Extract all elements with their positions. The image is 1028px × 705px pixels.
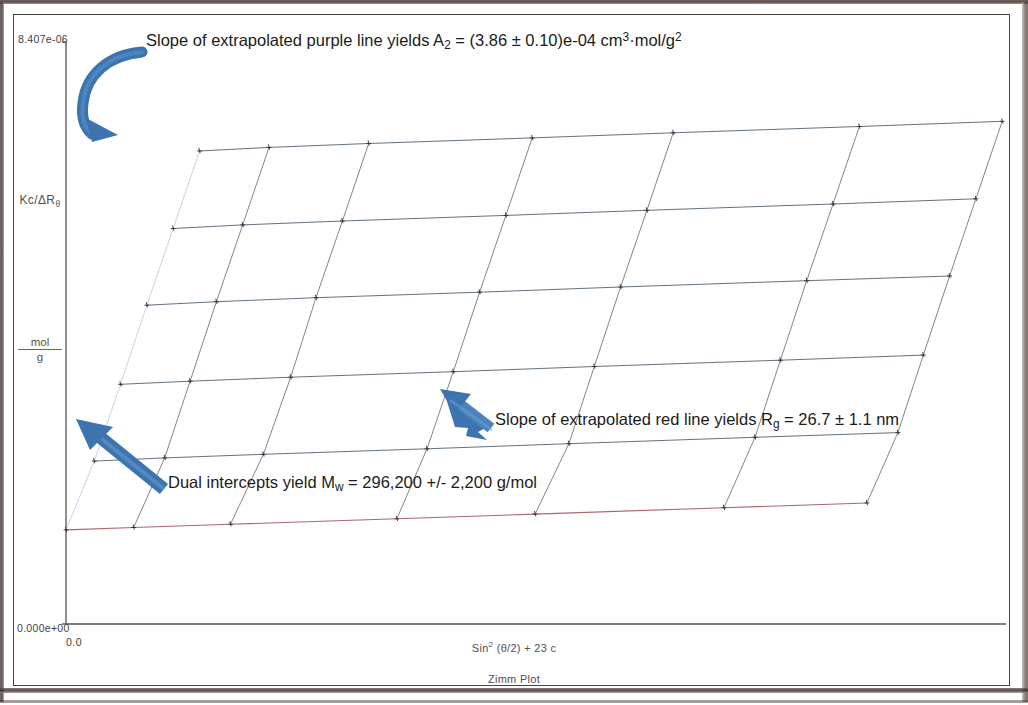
page-edge-bottom-secondary <box>0 700 1028 703</box>
chart-frame <box>13 14 1010 686</box>
annotation-purple-slope: Slope of extrapolated purple line yields… <box>146 30 682 52</box>
y-axis-units: mol g <box>18 336 62 363</box>
annotation-purple-text-1: Slope of extrapolated purple line yields… <box>146 31 444 49</box>
annotation-red-text-1: Slope of extrapolated red line yields R <box>495 410 773 428</box>
annotation-mw-text-2: = 296,200 +/- 2,200 g/mol <box>343 473 537 491</box>
y-axis-units-numerator: mol <box>18 336 62 350</box>
annotation-mw-text-1: Dual intercepts yield M <box>168 473 335 491</box>
y-axis-max-tick-label: 8.407e-06 <box>18 33 68 45</box>
x-axis-title-rest: (θ/2) + 23 c <box>493 642 556 654</box>
y-axis-title-main: Kc/ΔR <box>19 193 55 207</box>
page-edge-left <box>0 2 4 702</box>
x-axis-title: Sin2 (θ/2) + 23 c <box>0 640 1028 654</box>
zimm-plot-screenshot: 8.407e-06 0.000e+00 0.0 Kc/ΔRθ mol g Sin… <box>0 0 1028 705</box>
annotation-purple-sub-1: 2 <box>444 38 451 52</box>
page-edge-bottom <box>0 688 1028 693</box>
annotation-purple-text-2: = (3.86 ± 0.10)e-04 cm <box>451 31 623 49</box>
y-axis-title-subscript: θ <box>55 199 60 209</box>
annotation-red-sub-1: g <box>773 417 780 431</box>
annotation-purple-sup-2: 2 <box>675 30 682 44</box>
y-axis-min-tick-label: 0.000e+00 <box>17 622 70 634</box>
x-axis-title-prefix: Sin <box>472 642 489 654</box>
annotation-red-text-2: = 26.7 ± 1.1 nm <box>780 410 900 428</box>
page-edge-right <box>1022 2 1028 702</box>
y-axis-units-denominator: g <box>18 350 62 363</box>
page-edge-top <box>0 0 1028 4</box>
annotation-red-slope: Slope of extrapolated red line yields Rg… <box>495 410 899 431</box>
chart-subtitle: Zimm Plot <box>0 673 1028 685</box>
y-axis-title: Kc/ΔRθ <box>14 193 66 209</box>
annotation-purple-text-3: ·mol/g <box>629 31 675 49</box>
annotation-molecular-weight: Dual intercepts yield Mw = 296,200 +/- 2… <box>168 473 537 494</box>
